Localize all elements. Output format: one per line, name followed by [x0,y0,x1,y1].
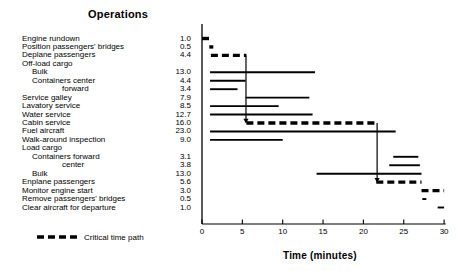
x-axis-tick-label: 25 [399,227,408,236]
x-axis-tick-label: 30 [440,227,449,236]
gantt-plot-area: 051015202530 [0,0,456,271]
gantt-chart-figure: Operations Engine rundownPosition passen… [0,0,456,271]
critical-path-legend-swatch [36,235,78,239]
legend-label: Critical time path [84,233,144,242]
x-axis-tick-label: 10 [278,227,287,236]
x-axis-tick-label: 0 [200,227,205,236]
x-axis-tick-label: 20 [359,227,368,236]
axis-title: Time (minutes) [283,250,357,261]
x-axis-tick-label: 5 [240,227,245,236]
x-axis-tick-label: 15 [319,227,328,236]
